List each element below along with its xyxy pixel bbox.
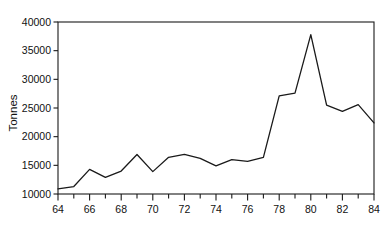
x-tick-label: 84 xyxy=(368,203,380,215)
x-tick-label: 72 xyxy=(179,203,191,215)
y-tick-label: 20000 xyxy=(22,130,51,142)
y-tick-label: 30000 xyxy=(22,73,51,85)
y-tick-label: 25000 xyxy=(22,102,51,114)
x-tick-label: 80 xyxy=(305,203,317,215)
x-tick-label: 74 xyxy=(210,203,222,215)
y-tick-label: 35000 xyxy=(22,44,51,56)
x-tick-label: 78 xyxy=(273,203,285,215)
y-tick-label: 15000 xyxy=(22,159,51,171)
x-tick-label: 82 xyxy=(337,203,349,215)
chart-background xyxy=(0,0,391,232)
y-axis-title: Tonnes xyxy=(7,94,19,131)
x-tick-label: 68 xyxy=(115,203,127,215)
line-chart: 10000150002000025000300003500040000 6466… xyxy=(0,0,391,232)
x-tick-label: 70 xyxy=(147,203,159,215)
chart-figure: 10000150002000025000300003500040000 6466… xyxy=(0,0,391,232)
y-tick-label: 40000 xyxy=(22,16,51,28)
x-tick-label: 76 xyxy=(242,203,254,215)
y-tick-label: 10000 xyxy=(22,188,51,200)
x-tick-label: 66 xyxy=(84,203,96,215)
x-tick-label: 64 xyxy=(52,203,64,215)
